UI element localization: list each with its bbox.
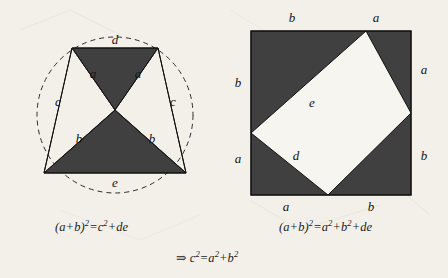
caption-right-mid: +b	[332, 220, 347, 234]
label-d-top: d	[112, 32, 119, 47]
conclusion-exp3: 2	[234, 249, 238, 259]
caption-right-equation: (a+b)2=a2+b2+de	[279, 220, 372, 235]
label-d-inner: d	[293, 148, 300, 163]
caption-left-equation: (a+b)2=c2+de	[55, 220, 128, 235]
lower-shaded-triangle	[44, 110, 186, 173]
label-e-bottom: e	[112, 175, 118, 190]
figure-page: d a a c c b b e b a a b b a a b e d (a+b…	[0, 0, 448, 278]
label-b-right: b	[149, 131, 156, 146]
caption-right-tail: +de	[352, 220, 373, 234]
label-a-right: a	[421, 62, 428, 77]
conclusion-mid: +b	[219, 251, 234, 265]
implies-arrow: ⇒	[176, 251, 187, 265]
label-c-left: c	[55, 94, 61, 109]
label-b-left: b	[235, 75, 242, 90]
caption-left-eq: =c	[89, 220, 103, 234]
conclusion-eq: =a	[200, 251, 215, 265]
label-e-inner: e	[309, 95, 315, 110]
caption-left-lead: (a+b)	[55, 220, 85, 234]
label-a-bottom: a	[283, 199, 290, 214]
upper-shaded-triangle	[72, 48, 158, 110]
label-b-left: b	[76, 131, 83, 146]
label-c-right: c	[170, 94, 176, 109]
caption-left-tail: +de	[108, 220, 129, 234]
label-a-left: a	[235, 151, 242, 166]
label-a-top: a	[373, 10, 380, 25]
label-b-top: b	[289, 10, 296, 25]
label-b-right: b	[421, 148, 428, 163]
caption-right-eq: =a	[313, 220, 328, 234]
label-a-left: a	[90, 66, 97, 81]
label-b-bottom: b	[368, 199, 375, 214]
square-tilted-square-figure: b a a b b a a b e d	[224, 0, 448, 215]
label-a-right: a	[135, 66, 142, 81]
caption-right-lead: (a+b)	[279, 220, 309, 234]
conclusion-equation: ⇒ c2=a2+b2	[176, 250, 238, 266]
circle-trapezoid-figure: d a a c c b b e	[0, 0, 224, 215]
